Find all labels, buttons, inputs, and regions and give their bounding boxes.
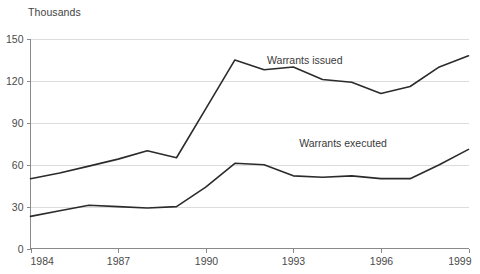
y-tick-label: 0 xyxy=(18,243,24,255)
y-axis-tick-labels: 0306090120150 xyxy=(6,33,24,255)
y-tick-label: 30 xyxy=(12,201,24,213)
y-tick-label: 150 xyxy=(6,33,24,45)
chart-plot-area: 0306090120150 198419871990199319961999 W… xyxy=(0,0,480,274)
x-tick-label: 1984 xyxy=(31,255,55,267)
x-tick-label: 1996 xyxy=(370,255,394,267)
x-tick-label: 1990 xyxy=(195,255,219,267)
x-axis-tick-labels: 198419871990199319961999 xyxy=(31,255,472,267)
y-tick-label: 90 xyxy=(12,117,24,129)
x-tick-label: 1999 xyxy=(448,255,472,267)
series-annotation-label: Warrants executed xyxy=(299,137,387,149)
y-tick-label: 60 xyxy=(12,159,24,171)
x-tick-label: 1987 xyxy=(107,255,131,267)
series-annotation-label: Warrants issued xyxy=(267,54,343,66)
y-tick-label: 120 xyxy=(6,75,24,87)
x-tick-label: 1993 xyxy=(282,255,306,267)
axis-ticks-group xyxy=(27,40,470,253)
series-line-2 xyxy=(31,149,469,216)
axes-group xyxy=(31,39,469,249)
series-line-1 xyxy=(31,56,469,179)
data-series-group xyxy=(31,56,469,217)
line-chart: Thousands 0306090120150 1984198719901993… xyxy=(0,0,480,274)
